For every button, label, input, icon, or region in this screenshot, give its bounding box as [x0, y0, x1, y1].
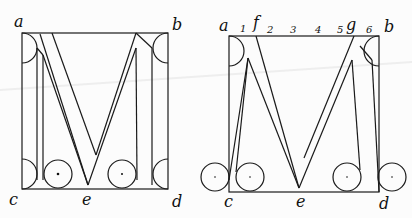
letter-m-construction-diagram: a b c e d a 1 f 2 3 4 5 g 6: [0, 0, 412, 218]
left-label-b: b: [172, 15, 182, 34]
right-label-g: g: [346, 15, 356, 34]
mark-5: 5: [337, 24, 343, 35]
right-figure: a 1 f 2 3 4 5 g 6 b c e d: [201, 13, 406, 213]
diagram-canvas: a b c e d a 1 f 2 3 4 5 g 6: [0, 0, 412, 218]
right-label-c: c: [224, 192, 233, 211]
right-label-e: e: [296, 192, 305, 211]
right-label-b: b: [384, 17, 394, 36]
left-arc-tr: [153, 33, 168, 63]
left-arc-bl: [22, 159, 37, 189]
right-arc-tl: [229, 36, 244, 66]
mark-6: 6: [366, 24, 373, 35]
right-label-f: f: [252, 13, 262, 32]
left-figure: a b c e d: [9, 12, 182, 211]
left-label-a: a: [14, 12, 24, 31]
mark-1: 1: [240, 23, 246, 34]
mark-4: 4: [314, 24, 321, 35]
left-arc-tl: [22, 33, 37, 63]
right-label-d: d: [379, 194, 389, 213]
mark-2: 2: [266, 24, 273, 35]
right-label-a: a: [219, 16, 229, 35]
left-arc-br: [153, 159, 168, 189]
left-label-e: e: [82, 190, 91, 209]
mark-3: 3: [290, 24, 296, 35]
left-label-d: d: [172, 192, 182, 211]
left-label-c: c: [9, 190, 18, 209]
